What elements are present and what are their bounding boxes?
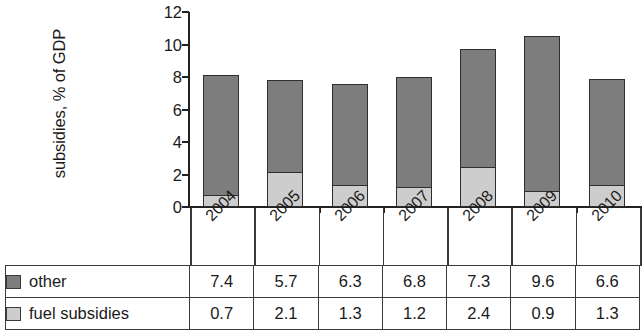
table-cell: 9.6 [511,266,575,298]
bar-group-2005 [254,12,318,207]
data-table-region: other7.45.76.36.87.39.66.6fuel subsidies… [5,265,639,331]
y-tick-label-6: 6 [148,101,182,118]
table-row: other7.45.76.36.87.39.66.6 [6,266,640,298]
stacked-bar-2004 [203,75,239,207]
bar-group-2008 [447,12,511,207]
table-cell: 7.4 [190,266,254,298]
table-column-rule-0 [190,208,192,266]
data-table: other7.45.76.36.87.39.66.6fuel subsidies… [5,265,640,330]
legend-row-other: other [6,266,190,298]
table-cell: 5.7 [254,266,318,298]
bar-group-2010 [576,12,640,207]
dark-gray-square-icon [6,275,21,289]
bar-group-2006 [319,12,383,207]
y-axis-title: subsidies, % of GDP [50,4,69,204]
table-cell: 6.6 [575,266,639,298]
bar-segment-other-2007 [396,77,432,188]
table-column-rule-1 [254,208,256,266]
y-tick-label-10: 10 [148,36,182,53]
table-row: fuel subsidies0.72.11.31.22.40.91.3 [6,298,640,330]
y-tick-mark-6 [182,109,189,111]
table-cell: 2.1 [254,298,318,330]
plot-area [190,12,640,207]
stacked-bar-2010 [589,79,625,207]
legend-label: other [29,272,67,291]
stacked-bar-2005 [267,80,303,207]
x-axis-tick-labels: 2004200520062007200820092010 [190,208,642,265]
stacked-bar-2006 [332,84,368,208]
y-tick-label-0: 0 [148,199,182,216]
bar-segment-other-2008 [460,49,496,168]
legend-label: fuel subsidies [29,304,129,323]
light-gray-square-icon [6,307,21,321]
y-tick-mark-0 [182,206,189,208]
table-cell: 0.9 [511,298,575,330]
y-tick-mark-2 [182,174,189,176]
table-column-rule-7 [640,208,642,266]
table-column-rule-2 [319,208,321,266]
y-tick-mark-10 [182,44,189,46]
y-tick-label-2: 2 [148,166,182,183]
table-cell: 1.3 [575,298,639,330]
stacked-bar-2007 [396,77,432,207]
y-tick-label-12: 12 [148,4,182,21]
table-cell: 1.3 [318,298,382,330]
bar-group-2004 [190,12,254,207]
table-column-rule-5 [511,208,513,266]
legend-row-fuel-subsidies: fuel subsidies [6,298,190,330]
table-column-rule-3 [383,208,385,266]
y-tick-label-4: 4 [148,134,182,151]
bar-segment-other-2005 [267,80,303,173]
bar-group-2007 [383,12,447,207]
bar-segment-other-2006 [332,84,368,186]
bar-segment-other-2009 [524,36,560,192]
table-cell: 1.2 [382,298,446,330]
bar-segment-other-2004 [203,75,239,195]
stacked-bar-2008 [460,49,496,207]
stacked-bar-chart: subsidies, % of GDP 024681012 2004200520… [0,0,644,265]
bar-segment-other-2010 [589,79,625,186]
table-column-rule-6 [576,208,578,266]
table-cell: 0.7 [190,298,254,330]
bar-group-2009 [511,12,575,207]
table-cell: 6.3 [318,266,382,298]
table-column-rule-4 [447,208,449,266]
y-tick-mark-4 [182,141,189,143]
table-cell: 2.4 [447,298,511,330]
y-tick-mark-12 [182,11,189,13]
y-tick-label-8: 8 [148,69,182,86]
y-axis-tick-labels: 024681012 [148,0,182,265]
table-cell: 7.3 [447,266,511,298]
stacked-bar-2009 [524,36,560,207]
chart-figure: subsidies, % of GDP 024681012 2004200520… [0,0,644,335]
y-tick-mark-8 [182,76,189,78]
table-cell: 6.8 [382,266,446,298]
